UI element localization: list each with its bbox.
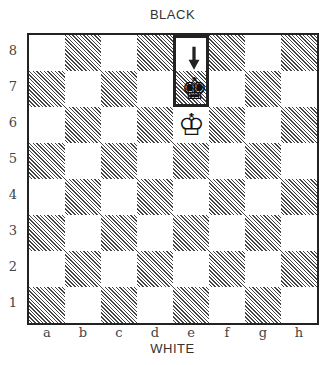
square-f2[interactable] <box>209 251 245 287</box>
square-g4[interactable] <box>245 179 281 215</box>
file-label-d: d <box>137 325 173 340</box>
square-d4[interactable] <box>137 179 173 215</box>
square-d7[interactable] <box>137 71 173 107</box>
square-e8[interactable] <box>173 35 209 71</box>
square-e1[interactable] <box>173 287 209 323</box>
down-arrow-icon <box>176 38 212 74</box>
square-g7[interactable] <box>245 71 281 107</box>
square-h2[interactable] <box>281 251 317 287</box>
square-d8[interactable] <box>137 35 173 71</box>
rank-label-6: 6 <box>8 115 18 130</box>
rank-label-8: 8 <box>8 43 18 58</box>
square-e2[interactable] <box>173 251 209 287</box>
rank-label-2: 2 <box>8 259 18 274</box>
square-f6[interactable] <box>209 107 245 143</box>
square-d6[interactable] <box>137 107 173 143</box>
square-c7[interactable] <box>101 71 137 107</box>
square-f3[interactable] <box>209 215 245 251</box>
square-h5[interactable] <box>281 143 317 179</box>
file-label-h: h <box>281 325 317 340</box>
square-a4[interactable] <box>29 179 65 215</box>
file-label-f: f <box>209 325 245 340</box>
square-d5[interactable] <box>137 143 173 179</box>
square-b7[interactable] <box>65 71 101 107</box>
square-e3[interactable] <box>173 215 209 251</box>
square-a7[interactable] <box>29 71 65 107</box>
square-b4[interactable] <box>65 179 101 215</box>
square-a3[interactable] <box>29 215 65 251</box>
square-d3[interactable] <box>137 215 173 251</box>
square-h8[interactable] <box>281 35 317 71</box>
square-d2[interactable] <box>137 251 173 287</box>
square-a1[interactable] <box>29 287 65 323</box>
white-king-icon[interactable]: ♔ <box>173 107 209 143</box>
square-g8[interactable] <box>245 35 281 71</box>
square-g5[interactable] <box>245 143 281 179</box>
square-h4[interactable] <box>281 179 317 215</box>
rank-label-5: 5 <box>8 151 18 166</box>
square-b1[interactable] <box>65 287 101 323</box>
square-g2[interactable] <box>245 251 281 287</box>
square-b2[interactable] <box>65 251 101 287</box>
square-c8[interactable] <box>101 35 137 71</box>
rank-label-4: 4 <box>8 187 18 202</box>
bottom-side-label: WHITE <box>0 341 325 356</box>
square-f5[interactable] <box>209 143 245 179</box>
black-king-icon[interactable]: ♚ <box>176 71 212 107</box>
square-a8[interactable] <box>29 35 65 71</box>
square-b5[interactable] <box>65 143 101 179</box>
top-side-label: BLACK <box>0 7 325 22</box>
square-f8[interactable] <box>209 35 245 71</box>
square-b8[interactable] <box>65 35 101 71</box>
square-g1[interactable] <box>245 287 281 323</box>
square-g6[interactable] <box>245 107 281 143</box>
square-b3[interactable] <box>65 215 101 251</box>
square-a2[interactable] <box>29 251 65 287</box>
square-c1[interactable] <box>101 287 137 323</box>
square-e7[interactable]: ♚ <box>173 71 209 107</box>
file-label-g: g <box>245 325 281 340</box>
square-c3[interactable] <box>101 215 137 251</box>
square-e4[interactable] <box>173 179 209 215</box>
square-c5[interactable] <box>101 143 137 179</box>
square-e5[interactable] <box>173 143 209 179</box>
file-label-a: a <box>29 325 65 340</box>
square-a6[interactable] <box>29 107 65 143</box>
rank-label-1: 1 <box>8 295 18 310</box>
square-c4[interactable] <box>101 179 137 215</box>
file-label-e: e <box>173 325 209 340</box>
square-h6[interactable] <box>281 107 317 143</box>
rank-label-7: 7 <box>8 79 18 94</box>
square-c2[interactable] <box>101 251 137 287</box>
square-c6[interactable] <box>101 107 137 143</box>
file-label-b: b <box>65 325 101 340</box>
square-e6[interactable]: ♔ <box>173 107 209 143</box>
square-b6[interactable] <box>65 107 101 143</box>
rank-label-3: 3 <box>8 223 18 238</box>
chess-board: ♚♔ <box>27 33 319 325</box>
square-h1[interactable] <box>281 287 317 323</box>
square-a5[interactable] <box>29 143 65 179</box>
file-label-c: c <box>101 325 137 340</box>
square-f1[interactable] <box>209 287 245 323</box>
square-h3[interactable] <box>281 215 317 251</box>
square-d1[interactable] <box>137 287 173 323</box>
square-f7[interactable] <box>209 71 245 107</box>
square-g3[interactable] <box>245 215 281 251</box>
square-f4[interactable] <box>209 179 245 215</box>
square-h7[interactable] <box>281 71 317 107</box>
